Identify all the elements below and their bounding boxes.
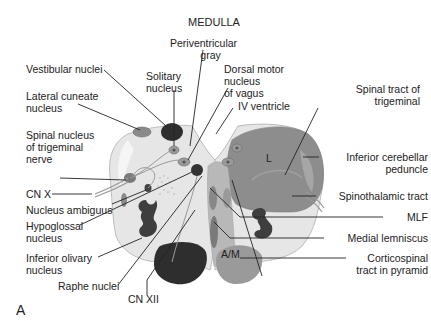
inside-label-l: L xyxy=(266,152,272,164)
label-line: CN X xyxy=(26,188,51,200)
label-line: tract in pyramid xyxy=(330,264,428,276)
pyramid-left xyxy=(154,242,207,284)
label-line: nucleus xyxy=(224,75,284,87)
mlf-left xyxy=(210,216,218,248)
label-line: Inferior olivary xyxy=(26,252,92,264)
label-solitary-nucleus: Solitary nucleus xyxy=(146,70,182,94)
label-line: IV ventricle xyxy=(238,100,290,112)
label-mlf: MLF xyxy=(384,211,428,223)
label-line: trigeminal xyxy=(312,95,420,107)
label-cn-x: CN X xyxy=(26,188,51,200)
label-line: Vestibular nuclei xyxy=(26,63,102,75)
label-line: Corticospinal xyxy=(330,252,428,264)
label-spinal-nucleus-trigeminal: Spinal nucleus of trigeminal nerve xyxy=(26,129,94,165)
label-line: MLF xyxy=(384,211,428,223)
label-line: Spinothalamic tract xyxy=(316,190,428,202)
label-line: Nucleus ambiguus xyxy=(26,204,112,216)
label-line: Solitary xyxy=(146,70,182,82)
label-line: CN XII xyxy=(128,293,159,305)
label-line: nucleus xyxy=(26,102,98,114)
label-medial-lemniscus: Medial lemniscus xyxy=(324,232,428,244)
label-corticospinal-tract: Corticospinal tract in pyramid xyxy=(330,252,428,276)
vestibular-nucleus xyxy=(161,123,183,141)
label-line: gray xyxy=(170,49,237,61)
inside-label-am: A/M xyxy=(221,248,240,260)
label-line: Periventricular xyxy=(170,37,237,49)
label-line: Spinal nucleus xyxy=(26,129,94,141)
label-line: nucleus xyxy=(146,82,182,94)
hypoglossal-nucleus xyxy=(191,164,203,176)
label-inferior-cerebellar-peduncle: Inferior cerebellar peduncle xyxy=(318,151,428,175)
label-line: Medial lemniscus xyxy=(324,232,428,244)
label-lateral-cuneate-nucleus: Lateral cuneate nucleus xyxy=(26,90,98,114)
label-line: Lateral cuneate xyxy=(26,90,98,102)
label-dorsal-motor-vagus: Dorsal motor nucleus of vagus xyxy=(224,63,284,99)
label-nucleus-ambiguus: Nucleus ambiguus xyxy=(26,204,112,216)
label-iv-ventricle: IV ventricle xyxy=(238,100,290,112)
panel-letter: A xyxy=(16,302,25,318)
label-line: of vagus xyxy=(224,87,284,99)
label-cn-xii: CN XII xyxy=(128,293,159,305)
label-line: Inferior cerebellar xyxy=(318,151,428,163)
label-line: of trigeminal xyxy=(26,141,94,153)
label-line: Raphe nuclei xyxy=(58,280,119,292)
medial-lemniscus-left xyxy=(209,186,217,210)
label-hypoglossal-nucleus: Hypoglossal nucleus xyxy=(26,220,83,244)
label-line: nerve xyxy=(26,153,94,165)
label-line: peduncle xyxy=(318,163,428,175)
label-spinal-tract-trigeminal: Spinal tract of trigeminal xyxy=(312,83,420,107)
label-inferior-olivary-nucleus: Inferior olivary nucleus xyxy=(26,252,92,276)
label-line: Hypoglossal xyxy=(26,220,83,232)
label-periventricular-gray: Periventricular gray xyxy=(170,37,237,61)
figure-title: MEDULLA xyxy=(188,16,240,28)
label-line: Dorsal motor xyxy=(224,63,284,75)
label-line: Spinal tract of xyxy=(312,83,420,95)
label-vestibular-nuclei: Vestibular nuclei xyxy=(26,63,102,75)
medulla-diagram: MEDULLA Periventricular gray Solitary nu… xyxy=(0,0,431,321)
label-raphe-nuclei: Raphe nuclei xyxy=(58,280,119,292)
label-spinothalamic-tract: Spinothalamic tract xyxy=(316,190,428,202)
label-line: nucleus xyxy=(26,232,83,244)
label-line: nucleus xyxy=(26,264,92,276)
